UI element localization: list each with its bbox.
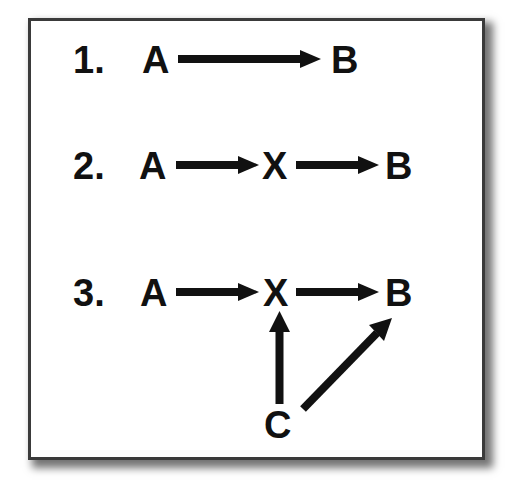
arrow-row2-x-to-b: [296, 156, 379, 174]
arrow-row1-a-to-b: [178, 50, 321, 68]
arrow-row3-a-to-x: [176, 283, 259, 301]
arrow-row3-c-to-b: [303, 318, 392, 409]
arrow-row2-a-to-x: [176, 156, 259, 174]
arrow-row3-c-to-x: [269, 311, 290, 404]
arrows-layer: [0, 0, 528, 485]
arrow-row3-x-to-b: [296, 283, 379, 301]
